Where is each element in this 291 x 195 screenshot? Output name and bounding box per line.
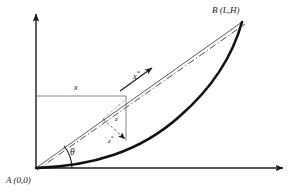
chord-line-a-to-b — [36, 22, 242, 168]
dash-dot-axis-line — [37, 24, 245, 170]
figure-container: A (0,0) B (L,H) x x* z z* θ — [0, 0, 291, 195]
label-z-star: z* — [108, 136, 114, 145]
label-x-star: x* — [133, 70, 140, 80]
label-point-a: A (0,0) — [6, 176, 31, 185]
label-angle-theta: θ — [70, 148, 75, 158]
label-z-star-superscript: * — [111, 135, 114, 141]
label-horizontal-x: x — [74, 83, 78, 92]
label-x-star-superscript: * — [137, 69, 140, 76]
label-point-b: B (L,H) — [212, 6, 240, 15]
diagram-canvas — [0, 0, 291, 195]
label-vertical-z: z — [115, 116, 118, 123]
z-star-vector-arrow — [103, 119, 125, 139]
